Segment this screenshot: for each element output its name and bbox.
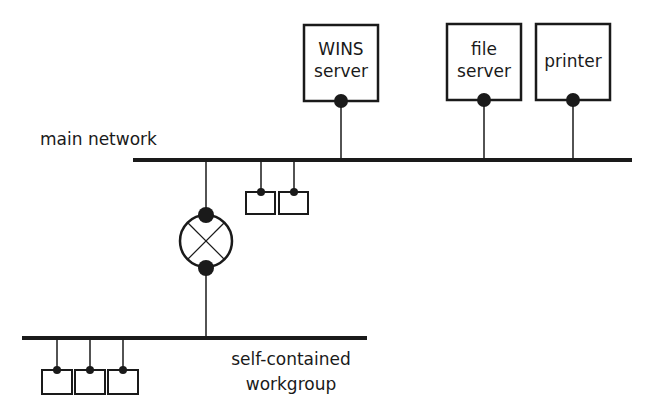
file-line2: server: [447, 60, 521, 82]
workgroup-line1: self-contained: [226, 347, 356, 372]
main-client-1: [246, 160, 275, 214]
wins-line2: server: [304, 60, 378, 82]
file-server-connector-dot: [477, 93, 491, 107]
workgroup-label: self-contained workgroup: [226, 347, 356, 397]
printer-node: [536, 24, 610, 160]
printer-line1: printer: [536, 50, 610, 72]
wins-connector-dot: [334, 94, 348, 108]
file-line1: file: [447, 38, 521, 60]
main-client-2: [279, 160, 308, 214]
file-server-label: file server: [447, 38, 521, 82]
router-icon: [180, 160, 232, 338]
workgroup-client-2: [75, 338, 105, 394]
workgroup-line2: workgroup: [226, 372, 356, 397]
printer-connector-dot: [566, 93, 580, 107]
printer-label: printer: [536, 50, 610, 72]
workgroup-client-3: [108, 338, 138, 394]
wins-server-label: WINS server: [304, 38, 378, 82]
workgroup-client-1: [42, 338, 72, 394]
wins-line1: WINS: [304, 38, 378, 60]
main-network-label: main network: [40, 129, 157, 149]
